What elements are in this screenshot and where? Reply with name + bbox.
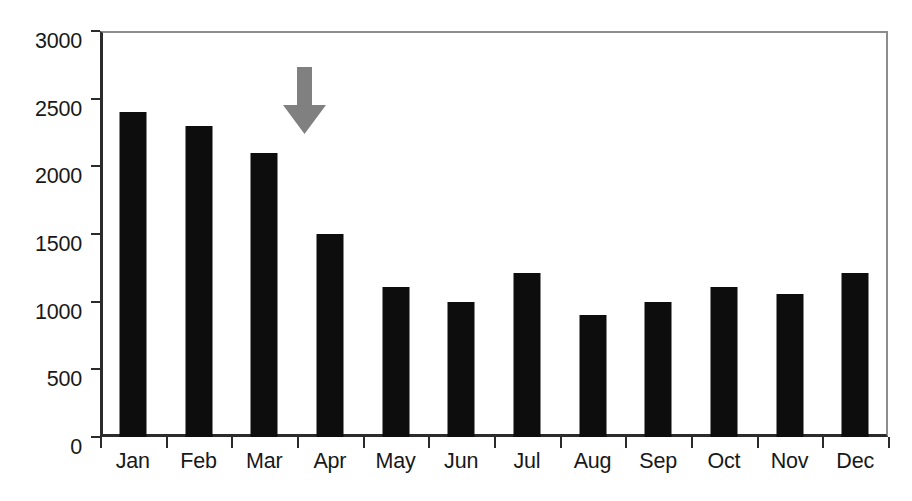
bar-jul: [513, 273, 540, 437]
y-axis-tickmark: [91, 368, 100, 370]
x-axis-tick-label-jun: Jun: [444, 450, 478, 474]
x-axis-tickmark: [100, 437, 102, 448]
y-axis-tickmark: [91, 98, 100, 100]
bar-sep: [645, 302, 672, 437]
caption-strip: [0, 487, 912, 501]
x-axis-tick-label-jan: Jan: [116, 450, 150, 474]
x-axis-tick-label-aug: Aug: [574, 450, 612, 474]
bar-mar: [251, 153, 278, 437]
bar-oct: [710, 287, 737, 437]
x-axis-tickmark: [822, 437, 824, 448]
bar-feb: [185, 126, 212, 437]
x-axis-tickmark: [363, 437, 365, 448]
y-axis-tickmark: [91, 30, 100, 32]
x-axis-tickmark: [757, 437, 759, 448]
x-axis-tick-label-oct: Oct: [707, 450, 740, 474]
x-axis-tickmark: [625, 437, 627, 448]
bars-layer: [100, 31, 888, 437]
x-axis-tick-label-jul: Jul: [513, 450, 540, 474]
x-axis-tick-label-dec: Dec: [836, 450, 874, 474]
y-axis-tick-label: 500: [47, 369, 82, 391]
bar-may: [382, 287, 409, 437]
x-axis-tick-label-nov: Nov: [771, 450, 809, 474]
x-axis-tickmark: [494, 437, 496, 448]
y-axis-tick-label: 1500: [35, 234, 82, 256]
bar-chart-figure: 050010001500200025003000 JanFebMarAprMay…: [0, 0, 912, 501]
arrow-down-icon: [282, 67, 327, 135]
y-axis: 050010001500200025003000: [0, 31, 100, 437]
x-axis-tickmark: [231, 437, 233, 448]
bar-jan: [119, 112, 146, 437]
y-axis-tick-label: 3000: [35, 31, 82, 53]
x-axis-tick-label-may: May: [375, 450, 415, 474]
y-axis-tick-label: 2000: [35, 166, 82, 188]
bar-jun: [448, 302, 475, 437]
bar-dec: [842, 273, 869, 437]
x-axis-tickmark: [888, 437, 890, 448]
x-axis-tick-label-sep: Sep: [639, 450, 677, 474]
x-axis-tickmark: [560, 437, 562, 448]
x-axis-tick-label-apr: Apr: [313, 450, 346, 474]
y-axis-tick-label: 1000: [35, 301, 82, 323]
y-axis-tick-label: 2500: [35, 98, 82, 120]
x-axis-tickmark: [166, 437, 168, 448]
x-axis-tick-label-mar: Mar: [246, 450, 282, 474]
y-axis-tickmark: [91, 301, 100, 303]
bar-apr: [316, 234, 343, 437]
y-axis-tick-label: 0: [70, 437, 82, 459]
y-axis-tickmark: [91, 436, 100, 438]
bar-aug: [579, 315, 606, 437]
x-axis-tick-label-feb: Feb: [180, 450, 216, 474]
x-axis-tickmark: [691, 437, 693, 448]
x-axis-tickmark: [428, 437, 430, 448]
y-axis-tickmark: [91, 165, 100, 167]
x-axis-tickmark: [297, 437, 299, 448]
y-axis-tickmark: [91, 233, 100, 235]
bar-nov: [776, 294, 803, 437]
